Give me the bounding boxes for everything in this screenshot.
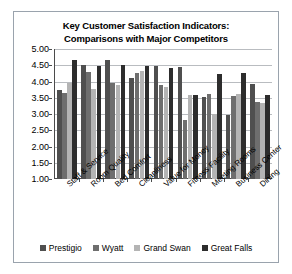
y-axis-tick-label: 3.50 (31, 93, 49, 103)
y-axis-tick-mark (49, 130, 52, 131)
legend-swatch-icon (93, 245, 99, 251)
bar (105, 60, 110, 179)
y-axis: 5.004.504.003.503.002.502.001.501.00 (14, 49, 51, 179)
x-axis-tick-mark (79, 179, 80, 182)
y-axis-tick-label: 1.50 (31, 158, 49, 168)
bar (62, 93, 67, 179)
chart-container: Key Customer Satisfaction Indicators: Co… (13, 11, 279, 263)
y-axis-tick-mark (49, 114, 52, 115)
legend-label: Prestigio (49, 243, 82, 253)
y-axis-tick-mark (49, 163, 52, 164)
bar-group (55, 49, 79, 179)
x-axis-tick-mark (224, 179, 225, 182)
legend-swatch-icon (134, 245, 140, 251)
legend-swatch-icon (40, 245, 46, 251)
x-axis-tick-mark (200, 179, 201, 182)
bar (72, 60, 77, 179)
x-axis-tick-mark (127, 179, 128, 182)
x-axis-tick-mark (176, 179, 177, 182)
bar (193, 95, 198, 179)
y-axis-tick-mark (49, 147, 52, 148)
x-axis-tick-mark (248, 179, 249, 182)
bar (81, 65, 86, 179)
bar (265, 95, 270, 180)
bar (178, 67, 183, 179)
x-axis: Staff & ServiceRoom QualityBed ComfortCl… (14, 180, 278, 242)
y-axis-tick-label: 4.00 (31, 77, 49, 87)
y-axis-tick-mark (49, 49, 52, 50)
chart-title-line-1: Key Customer Satisfaction Indicators: (63, 20, 230, 31)
y-axis-tick-label: 3.00 (31, 109, 49, 119)
y-axis-tick-label: 4.50 (31, 60, 49, 70)
x-axis-tick-mark (151, 179, 152, 182)
legend-item[interactable]: Great Falls (202, 243, 253, 253)
legend-label: Wyatt (102, 243, 124, 253)
bar (67, 83, 72, 179)
bar (57, 90, 62, 179)
legend-label: Grand Swan (143, 243, 190, 253)
chart-title: Key Customer Satisfaction Indicators: Co… (14, 20, 278, 45)
legend-item[interactable]: Grand Swan (134, 243, 190, 253)
y-axis-tick-label: 5.00 (31, 44, 49, 54)
y-axis-tick-mark (49, 98, 52, 99)
y-axis-tick-label: 2.00 (31, 142, 49, 152)
y-axis-tick-label: 2.50 (31, 125, 49, 135)
legend-item[interactable]: Prestigio (40, 243, 82, 253)
chart-legend: PrestigioWyattGrand SwanGreat Falls (14, 243, 278, 253)
legend-swatch-icon (202, 245, 208, 251)
y-axis-tick-mark (49, 65, 52, 66)
chart-title-line-2: Comparisons with Major Competitors (14, 33, 278, 46)
y-axis-tick-mark (49, 82, 52, 83)
legend-item[interactable]: Wyatt (93, 243, 124, 253)
x-axis-tick-mark (103, 179, 104, 182)
legend-label: Great Falls (211, 243, 253, 253)
